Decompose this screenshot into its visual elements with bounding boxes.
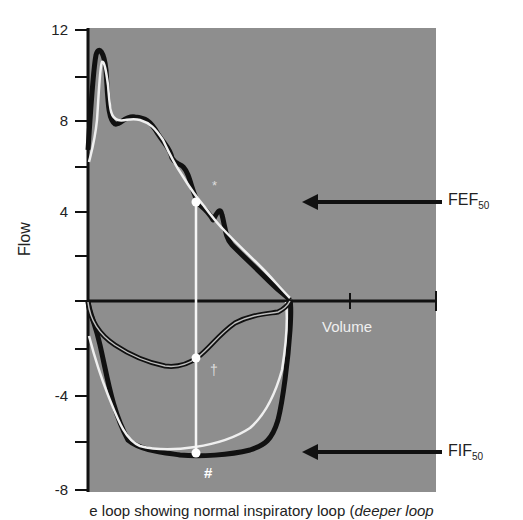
- fif50-label-main: FIF: [448, 442, 472, 459]
- fif50-label-sub: 50: [472, 451, 483, 462]
- fif50-label: FIF50: [448, 442, 483, 462]
- plot-background: [88, 28, 436, 492]
- caption-text: e loop showing normal inspiratory loop (: [89, 502, 354, 519]
- x-axis-label: Volume: [322, 318, 372, 335]
- fef50-point: [192, 198, 201, 207]
- flattened-fif50-point: [192, 354, 201, 363]
- y-tick-label-4: 4: [28, 203, 68, 220]
- caption-italic: deeper loop: [354, 502, 433, 519]
- flow-volume-chart: [0, 0, 523, 520]
- y-axis-label: Flow: [16, 222, 34, 256]
- star-marker: *: [212, 178, 217, 193]
- fef50-label: FEF50: [448, 191, 489, 211]
- hash-marker: #: [204, 464, 212, 481]
- fef50-label-sub: 50: [478, 200, 489, 211]
- y-tick-label-12: 12: [28, 21, 68, 38]
- y-axis-ticks: [75, 30, 88, 490]
- y-tick-label-neg4: -4: [28, 387, 68, 404]
- fif50-point: [192, 449, 201, 458]
- dagger-marker: †: [210, 362, 218, 378]
- y-tick-label-neg8: -8: [28, 481, 68, 498]
- figure-caption: e loop showing normal inspiratory loop (…: [0, 502, 523, 519]
- y-tick-label-8: 8: [28, 112, 68, 129]
- fef50-label-main: FEF: [448, 191, 478, 208]
